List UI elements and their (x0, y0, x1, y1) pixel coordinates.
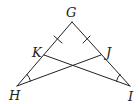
angle-arc-H (27, 75, 31, 82)
label-H: H (8, 88, 21, 103)
triangle-diagram: G K J H I (0, 0, 139, 104)
label-I: I (127, 89, 134, 104)
label-K: K (31, 45, 43, 60)
segment-GH (17, 22, 72, 86)
label-G: G (66, 5, 76, 20)
segment-GI (72, 22, 130, 86)
tick-mark-GJ (83, 36, 90, 43)
angle-arc-I (117, 75, 121, 82)
